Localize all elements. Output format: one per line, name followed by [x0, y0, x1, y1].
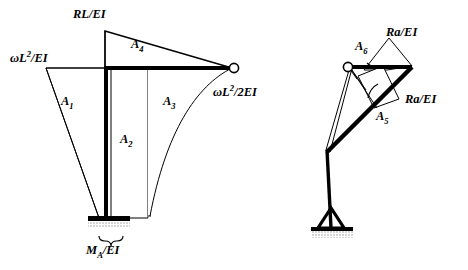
right-fan-line-5	[326, 70, 349, 150]
label-ra-ei-right: Ra/EI	[405, 93, 436, 106]
label-area-A5: A5	[376, 110, 389, 125]
right-pin-joint-circle	[343, 62, 352, 71]
right-support-base-plate	[311, 227, 353, 231]
label-area-A2: A2	[120, 133, 133, 148]
diagram-canvas	[0, 0, 468, 270]
left-fixed-support-plate	[88, 216, 130, 221]
right-column-member	[327, 150, 331, 228]
figure-root: ωL2/EI RL/EI ωL2/2EI MA/EI A1 A2 A3 A4 R…	[0, 0, 468, 270]
right-support-ground-hatch	[311, 231, 353, 238]
left-support-ground-hatch	[88, 221, 130, 228]
area-A4-outline	[105, 31, 232, 68]
left-frame-structure	[46, 31, 239, 246]
label-omega-l2-2ei: ωL2/2EI	[213, 84, 257, 99]
label-area-A6: A6	[355, 40, 368, 55]
left-pin-joint-circle	[229, 63, 238, 72]
label-area-A3: A3	[163, 95, 176, 110]
area-A1-region	[46, 68, 105, 218]
label-ma-ei: MA/EI	[86, 244, 119, 259]
right-frame-structure	[311, 38, 412, 238]
label-area-A4: A4	[131, 38, 144, 53]
area-A4-region	[105, 31, 232, 68]
label-area-A1: A1	[61, 95, 74, 110]
label-omega-l2-ei: ωL2/EI	[10, 50, 48, 65]
label-rl-ei: RL/EI	[73, 8, 106, 21]
area-A1-outline	[46, 68, 105, 218]
label-ra-ei-top: Ra/EI	[386, 26, 417, 39]
